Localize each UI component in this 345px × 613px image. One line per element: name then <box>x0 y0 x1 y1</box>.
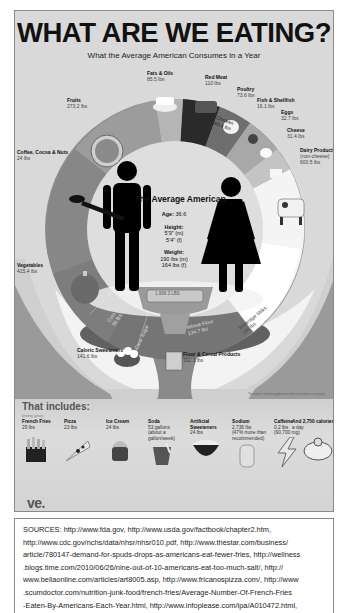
source-line: http://www.cdc.gov/nchs/data/nhsr/nhsr01… <box>23 537 327 550</box>
include-item-artificial-sweeteners: Artificial Sweeteners24 lbs <box>190 419 230 436</box>
label-coffee-cocoa-nuts: Coffee, Cocoa & Nuts24 lbs <box>17 149 68 161</box>
label-flour-cereal: Flour & Cereal Products192.3 lbs <box>183 351 240 363</box>
includes-items: French Fries29 lbs Pizza23 lbs Ice Cream… <box>22 419 332 479</box>
flour-box-icon <box>166 352 182 370</box>
source-line: SOURCES: http://www.fda.gov, http://www.… <box>23 524 327 537</box>
source-line: www.bellaonline.com/articles/art8005.asp… <box>23 574 327 587</box>
include-item-pizza: Pizza23 lbs <box>64 419 104 430</box>
includes-title: That includes: <box>22 401 90 412</box>
scale-readout: 1,996.3 LBS <box>155 291 180 297</box>
include-item-sodium: Sodium2,736 lbs(47% more than recommende… <box>232 419 272 441</box>
infographic-poster: WHAT ARE WE EATING? What the Average Ame… <box>14 10 334 512</box>
source-line: article/780147-demand-for-spuds-drops-as… <box>23 549 327 562</box>
page-title: WHAT ARE WE EATING? <box>14 18 334 49</box>
label-cheese: Cheese31.4 lbs <box>287 127 305 139</box>
label-dairy-products: Dairy Products(non-cheese)600.5 lbs <box>300 147 334 165</box>
eggs-icon <box>260 148 272 158</box>
source-line: -Eaten-By-Americans-Each-Year.html, http… <box>23 600 327 613</box>
average-american-stats: Age: 36.6 Height: 5'9" (m) 5'4" (f) Weig… <box>149 211 199 269</box>
fats-oils-icon <box>153 97 177 112</box>
soda-icon <box>148 443 176 469</box>
include-item-soda: Soda53 gallons(about a gallon/week) <box>148 419 188 441</box>
visual-economics-logo: ve. visualeconomics.com <box>27 495 45 511</box>
overweight-person-icon <box>300 437 334 463</box>
orange-icon <box>91 135 123 167</box>
sources-text: SOURCES: http://www.fda.gov, http://www.… <box>14 518 334 613</box>
pizza-icon <box>64 437 92 463</box>
source-line: .scumdoctor.com/nutrition-junk-food/fren… <box>23 587 327 600</box>
cheese-icon <box>270 169 282 178</box>
ice-cream-icon <box>106 437 134 463</box>
label-vegetables: Vegetables415.4 lbs <box>17 262 43 274</box>
red-meat-icon <box>195 101 217 113</box>
label-fish-shellfish: Fish & Shellfish16.1 lbs <box>257 97 295 109</box>
label-eggs: Eggs32.7 lbs <box>281 109 299 121</box>
footnote: *Includes food supplement but not eaten … <box>248 392 325 396</box>
include-item-calories: And 2,750 caloriesa day <box>292 419 334 430</box>
center-title: The Average American <box>115 194 245 204</box>
fish-icon <box>248 134 258 144</box>
includes-subtitle: (every year) <box>22 413 43 418</box>
label-fats-oils: Fats & Oils85.5 lbs <box>147 70 173 82</box>
food-ring-chart: Fats & Oils85.5 lbs Red Meat110 lbs Poul… <box>15 59 334 404</box>
label-red-meat: Red Meat110 lbs <box>205 74 227 86</box>
sweetener-bowl-icon <box>190 437 222 463</box>
source-line: .blogs.time.com/2010/06/26/nine-out-of-1… <box>23 562 327 575</box>
salt-shaker-icon <box>232 443 260 469</box>
include-item-ice-cream: Ice Cream24 lbs <box>106 419 146 430</box>
label-poultry: Poultry73.6 lbs <box>237 86 255 98</box>
lightning-icon <box>274 437 302 467</box>
label-caloric-sweeteners: Caloric Sweeteners141.6 lbs <box>77 347 123 359</box>
label-fruits: Fruits273.2 lbs <box>67 97 87 109</box>
include-item-french-fries: French Fries29 lbs <box>22 419 62 430</box>
includes-section: That includes: (every year) French Fries… <box>15 399 333 512</box>
french-fries-icon <box>22 437 50 463</box>
